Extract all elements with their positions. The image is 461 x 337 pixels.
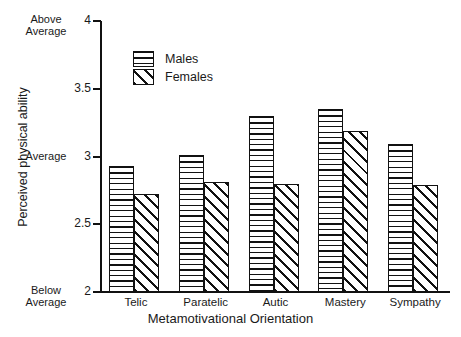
bar-paratelic-males bbox=[179, 155, 204, 292]
y-tick-mark bbox=[93, 88, 101, 90]
y-tick-mark bbox=[93, 20, 101, 22]
x-tick-label: Paratelic bbox=[171, 296, 241, 308]
legend-label-females: Females bbox=[165, 70, 213, 84]
y-tick-label: 2.5 bbox=[55, 216, 91, 230]
y-tick-mark bbox=[93, 291, 101, 293]
bar-group bbox=[249, 21, 299, 292]
legend-swatch-males-icon bbox=[133, 51, 154, 67]
y-tick-annotation: BelowAverage bbox=[20, 284, 72, 308]
legend: Males Females bbox=[133, 50, 213, 86]
y-tick-mark bbox=[93, 156, 101, 158]
legend-item-males: Males bbox=[133, 50, 213, 68]
x-tick-label: Telic bbox=[101, 296, 171, 308]
x-tick-label: Autic bbox=[241, 296, 311, 308]
bar-sympathy-males bbox=[388, 144, 413, 292]
bar-mastery-females bbox=[343, 131, 368, 292]
x-tick-label: Mastery bbox=[310, 296, 380, 308]
bar-autic-males bbox=[249, 116, 274, 292]
bar-telic-females bbox=[134, 194, 159, 292]
bar-group bbox=[388, 21, 438, 292]
bar-telic-males bbox=[109, 166, 134, 292]
y-tick-mark bbox=[93, 223, 101, 225]
bar-autic-females bbox=[274, 184, 299, 292]
bar-paratelic-females bbox=[204, 182, 229, 292]
bar-mastery-males bbox=[318, 109, 343, 292]
x-axis-title: Metamotivational Orientation bbox=[0, 311, 461, 326]
bar-chart: Perceived physical ability 2BelowAverage… bbox=[0, 0, 461, 337]
y-tick-label: 3.5 bbox=[55, 81, 91, 95]
legend-item-females: Females bbox=[133, 68, 213, 86]
legend-swatch-females-icon bbox=[133, 69, 154, 85]
bar-group bbox=[318, 21, 368, 292]
legend-label-males: Males bbox=[165, 52, 198, 66]
y-tick-annotation: Average bbox=[20, 150, 72, 162]
y-tick-annotation: AboveAverage bbox=[20, 13, 72, 37]
x-tick-label: Sympathy bbox=[380, 296, 450, 308]
bar-sympathy-females bbox=[413, 185, 438, 292]
